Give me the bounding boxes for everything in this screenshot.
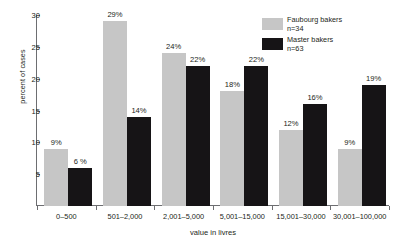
legend-series-name-master: Master bakers bbox=[287, 35, 333, 44]
bar: 19% bbox=[362, 85, 386, 206]
y-axis-tick-label: 15 bbox=[10, 106, 40, 115]
legend-series-n-faubourg: n=34 bbox=[287, 25, 342, 34]
bar-value-label: 12% bbox=[283, 119, 298, 128]
plot-area: 9%6 %29%14%24%22%18%22%12%16%9%19% bbox=[37, 15, 389, 206]
bar-value-label: 14% bbox=[131, 106, 146, 115]
legend-series-n-master: n=63 bbox=[287, 45, 333, 54]
x-axis-category-label: 5,001–15,000 bbox=[213, 212, 272, 221]
x-axis-category-label: 15,001–30,000 bbox=[272, 212, 331, 221]
bar-value-label: 22% bbox=[190, 55, 205, 64]
x-axis-tick bbox=[213, 206, 214, 210]
y-axis-tick-label: 30 bbox=[10, 11, 40, 20]
x-axis-tick bbox=[154, 206, 155, 210]
bar: 18% bbox=[220, 91, 244, 206]
bar-value-label: 6 % bbox=[74, 157, 87, 166]
y-axis-tick-label: 20 bbox=[10, 74, 40, 83]
x-axis-category-label: 0–500 bbox=[37, 212, 96, 221]
bar-value-label: 16% bbox=[307, 93, 322, 102]
x-axis-title: value in livres bbox=[37, 228, 389, 237]
x-axis-category-label: 2,001–5,000 bbox=[154, 212, 213, 221]
legend-series-name-faubourg: Faubourg bakers bbox=[287, 15, 342, 24]
x-axis-tick bbox=[272, 206, 273, 210]
x-axis-tick bbox=[330, 206, 331, 210]
bar: 22% bbox=[186, 66, 210, 206]
bar-group: 29%14% bbox=[103, 15, 151, 206]
bar-value-label: 9% bbox=[344, 138, 355, 147]
x-axis-tick bbox=[96, 206, 97, 210]
x-axis-category-label: 501–2,000 bbox=[96, 212, 155, 221]
bar: 14% bbox=[127, 117, 151, 206]
bar: 16% bbox=[303, 104, 327, 206]
bar-group: 9%19% bbox=[338, 15, 386, 206]
legend-label-faubourg: Faubourg bakers n=34 bbox=[287, 16, 342, 33]
x-axis-tick bbox=[37, 206, 38, 210]
bar-group: 9%6 % bbox=[44, 15, 92, 206]
bar: 22% bbox=[244, 66, 268, 206]
bar-group: 24%22% bbox=[162, 15, 210, 206]
bar-value-label: 22% bbox=[249, 55, 264, 64]
legend-label-master: Master bakers n=63 bbox=[287, 36, 333, 53]
bar: 12% bbox=[279, 130, 303, 206]
bar: 9% bbox=[338, 149, 362, 206]
bar-value-label: 29% bbox=[107, 10, 122, 19]
bar: 29% bbox=[103, 21, 127, 206]
bar: 6 % bbox=[68, 168, 92, 206]
bar-value-label: 19% bbox=[366, 74, 381, 83]
bar-value-label: 9% bbox=[51, 138, 62, 147]
bar-value-label: 18% bbox=[225, 80, 240, 89]
bar-value-label: 24% bbox=[166, 42, 181, 51]
y-axis-tick-label: 5 bbox=[10, 170, 40, 179]
x-axis-tick bbox=[389, 206, 390, 210]
bar: 9% bbox=[44, 149, 68, 206]
legend-swatch-icon-master bbox=[262, 38, 283, 50]
y-axis-tick-label: 25 bbox=[10, 42, 40, 51]
legend-swatch-icon-faubourg bbox=[262, 18, 283, 30]
bar: 24% bbox=[162, 53, 186, 206]
y-axis-tick-label: 10 bbox=[10, 138, 40, 147]
bar-chart: percent of cases 51015202530 9%6 %29%14%… bbox=[0, 0, 395, 243]
x-axis-category-label: 30,001–100,000 bbox=[330, 212, 389, 221]
